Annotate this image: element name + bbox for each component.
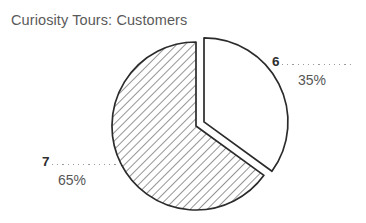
pie-chart xyxy=(0,0,366,223)
callout-left-percent: 65% xyxy=(58,172,122,188)
callout-left-row: 7 xyxy=(42,154,122,169)
callout-slice-6: 6 35% xyxy=(272,54,354,88)
callout-right-row: 6 xyxy=(272,54,354,69)
callout-right-key: 6 xyxy=(272,54,280,69)
callout-slice-7: 7 65% xyxy=(42,154,122,188)
chart-canvas: Curiosity Tours: Customers 6 35% 7 65% xyxy=(0,0,366,223)
leader-line-right xyxy=(282,64,354,65)
leader-line-left xyxy=(52,164,122,165)
callout-left-key: 7 xyxy=(42,154,50,169)
callout-right-percent: 35% xyxy=(298,72,354,88)
